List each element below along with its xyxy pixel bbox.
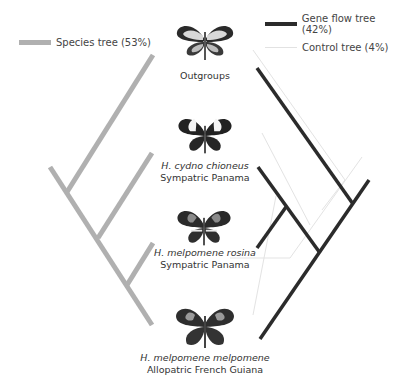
gene-flow-tree	[257, 68, 369, 339]
species-tree	[50, 55, 153, 325]
butterfly-outgroups-icon	[173, 18, 237, 66]
taxon-name: H. melpomene rosina	[125, 247, 285, 259]
taxon-label-outgroups: Outgroups	[125, 70, 285, 82]
butterfly-rosina-icon	[173, 205, 235, 249]
taxon-label-cydno: H. cydno chioneus Sympatric Panama	[125, 160, 285, 184]
butterfly-melpomene-icon	[171, 302, 239, 350]
butterfly-cydno-icon	[174, 113, 236, 157]
taxon-name: H. cydno chioneus	[125, 160, 285, 172]
taxon-name: H. melpomene melpomene	[125, 352, 285, 364]
taxon-location: Sympatric Panama	[125, 259, 285, 271]
taxon-location: Sympatric Panama	[125, 172, 285, 184]
taxon-label-rosina: H. melpomene rosina Sympatric Panama	[125, 247, 285, 271]
taxon-name: Outgroups	[125, 70, 285, 82]
taxon-location: Allopatric French Guiana	[125, 364, 285, 376]
taxon-label-melpomene: H. melpomene melpomene Allopatric French…	[125, 352, 285, 376]
